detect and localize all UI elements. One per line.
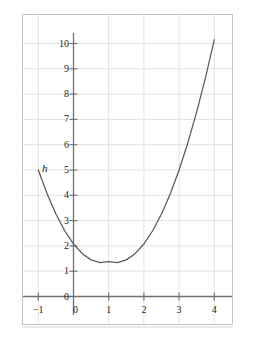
figure-bottom-shadow — [22, 326, 233, 328]
figure-caption-fragment — [8, 0, 247, 7]
y-tick-label-4: 4 — [47, 190, 69, 200]
x-tick-label-1: 1 — [97, 305, 121, 315]
plot-frame: h 0 1 2 3 4 5 6 7 8 9 10 −1 0 1 2 3 4 — [22, 14, 233, 325]
y-tick-label-0: 0 — [47, 292, 69, 302]
y-tick-label-6: 6 — [47, 140, 69, 150]
y-tick-label-5: 5 — [47, 165, 69, 175]
y-tick-label-7: 7 — [47, 114, 69, 124]
x-tick-label-2: 2 — [132, 305, 156, 315]
y-tick-label-3: 3 — [47, 216, 69, 226]
y-tick-label-10: 10 — [47, 39, 69, 49]
y-tick-label-9: 9 — [47, 64, 69, 74]
y-tick-label-2: 2 — [47, 241, 69, 251]
figure: h 0 1 2 3 4 5 6 7 8 9 10 −1 0 1 2 3 4 — [0, 0, 255, 339]
y-tick-label-8: 8 — [47, 89, 69, 99]
x-tick-label-0: 0 — [64, 305, 88, 315]
y-tick-label-1: 1 — [47, 266, 69, 276]
x-tick-label-neg1: −1 — [26, 305, 50, 315]
x-tick-label-4: 4 — [202, 305, 226, 315]
x-tick-label-3: 3 — [167, 305, 191, 315]
